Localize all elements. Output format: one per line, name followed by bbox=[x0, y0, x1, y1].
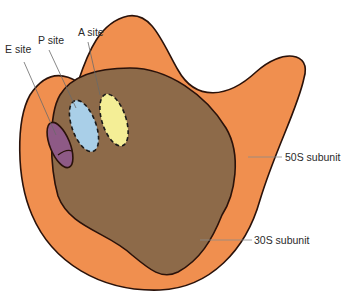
a-site-label: A site bbox=[78, 27, 104, 38]
large-subunit-label: 50S subunit bbox=[285, 152, 340, 163]
p-site-label: P site bbox=[38, 35, 64, 46]
e-site-label: E site bbox=[5, 44, 31, 55]
small-subunit-label: 30S subunit bbox=[254, 235, 309, 246]
